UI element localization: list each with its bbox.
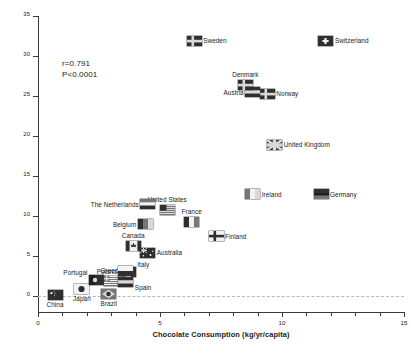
x-tick-label: 15 <box>398 319 410 326</box>
zero-baseline <box>38 296 404 297</box>
y-tick-label: 30 <box>23 51 30 57</box>
x-tick-minor <box>111 312 112 316</box>
data-point-label: China <box>47 301 64 308</box>
flag-marker-icon <box>140 248 155 258</box>
flag-marker-icon <box>184 217 199 227</box>
data-point-label: Finland <box>225 233 246 240</box>
x-axis-title: Chocolate Consumption (kg/yr/capita) <box>38 330 404 339</box>
chart-figure: Nobel Laureates per 10 Million Populatio… <box>0 0 411 356</box>
x-tick-minor <box>87 312 88 316</box>
x-tick-minor <box>233 312 234 316</box>
y-axis-line <box>38 16 39 312</box>
x-tick-minor <box>306 312 307 316</box>
y-tick: 30 <box>33 56 38 57</box>
data-point-label: Switzerland <box>335 37 369 44</box>
y-tick: 10 <box>33 216 38 217</box>
flag-marker-icon <box>74 284 89 294</box>
data-point-label: Denmark <box>232 71 258 78</box>
flag-marker-icon <box>160 205 175 215</box>
flag-marker-icon <box>245 189 260 199</box>
flag-marker-icon <box>138 219 153 229</box>
x-tick-minor <box>331 312 332 316</box>
flag-marker-icon <box>187 36 202 46</box>
y-tick: 25 <box>33 96 38 97</box>
data-point-label: Belgium <box>113 221 136 228</box>
x-tick-major: 5 <box>160 312 161 317</box>
flag-marker-icon <box>314 189 329 199</box>
x-tick-minor <box>136 312 137 316</box>
data-point-label: Poland <box>97 268 117 275</box>
y-tick: 5 <box>33 256 38 257</box>
flag-marker-icon <box>101 289 116 299</box>
data-point-label: Brazil <box>101 300 117 307</box>
data-point-label: The Netherlands <box>91 201 139 208</box>
data-point-label: Ireland <box>262 191 282 198</box>
data-point-label: Portugal <box>63 269 87 276</box>
flag-marker-icon <box>267 140 282 150</box>
x-tick-minor <box>62 312 63 316</box>
data-point-label: Norway <box>276 90 298 97</box>
flag-marker-icon <box>118 277 133 287</box>
y-tick: 15 <box>33 176 38 177</box>
x-tick-minor <box>209 312 210 316</box>
data-point-label: Italy <box>137 261 149 268</box>
y-tick-label: 35 <box>23 11 30 17</box>
flag-marker-icon <box>118 266 133 276</box>
data-point-label: United Kingdom <box>284 141 330 148</box>
x-tick-major: 0 <box>38 312 39 317</box>
flag-marker-icon <box>140 199 155 209</box>
data-point-label: Spain <box>135 284 152 291</box>
x-tick-minor <box>355 312 356 316</box>
x-tick-minor <box>258 312 259 316</box>
x-tick-major: 10 <box>282 312 283 317</box>
flag-marker-icon <box>104 276 119 286</box>
y-tick-label: 20 <box>23 131 30 137</box>
flag-marker-icon <box>260 89 275 99</box>
data-point-label: Sweden <box>203 37 226 44</box>
data-point-label: Japan <box>73 295 91 302</box>
y-tick-label: 25 <box>23 91 30 97</box>
correlation-annotation: r=0.791 P<0.0001 <box>62 58 97 80</box>
x-tick-minor <box>184 312 185 316</box>
r-value: r=0.791 <box>62 58 97 69</box>
x-tick-label: 10 <box>276 319 288 326</box>
y-tick: 35 <box>33 16 38 17</box>
data-point-label: France <box>182 208 202 215</box>
flag-marker-icon <box>48 290 63 300</box>
flag-marker-icon <box>89 275 104 285</box>
y-tick: 20 <box>33 136 38 137</box>
flag-marker-icon <box>209 231 224 241</box>
p-value: P<0.0001 <box>62 69 97 80</box>
y-tick-label: 15 <box>23 171 30 177</box>
flag-marker-icon <box>318 36 333 46</box>
flag-marker-icon <box>238 80 253 90</box>
y-tick-label: 10 <box>23 211 30 217</box>
x-tick-label: 0 <box>32 319 44 326</box>
x-tick-major: 15 <box>404 312 405 317</box>
y-tick-label: 5 <box>27 251 30 257</box>
data-point-label: Canada <box>122 232 145 239</box>
x-tick-label: 5 <box>154 319 166 326</box>
x-axis-line <box>38 312 404 313</box>
x-tick-minor <box>380 312 381 316</box>
data-point-label: Australia <box>157 249 182 256</box>
flag-marker-icon <box>126 241 141 251</box>
y-tick-label: 0 <box>27 291 30 297</box>
y-tick: 0 <box>33 296 38 297</box>
data-point-label: Germany <box>330 191 357 198</box>
